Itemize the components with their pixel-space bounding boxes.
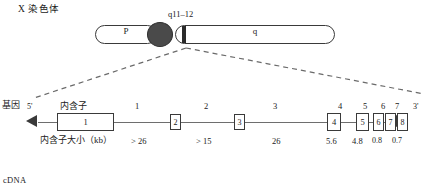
exon-label-8: 8 (398, 114, 407, 131)
exon-box-6: 6 (373, 113, 384, 131)
q-arm-label: q (175, 22, 335, 41)
band-label-q11-12: q11–12 (168, 10, 193, 19)
cdna-label: cDNA (3, 176, 26, 185)
intron-size-6: 0.8 (372, 137, 382, 145)
intron-number-4: 4 (338, 102, 342, 111)
intron-number-1: 1 (135, 102, 139, 111)
zoom-connector-lines (0, 44, 433, 100)
figure-canvas: X 染色体 q11–12 P q 基因 5' 3' 内含子 1 2 3 4 5 … (0, 0, 433, 191)
intron-number-3: 3 (273, 102, 277, 111)
gene-structure-map: 5' 3' 内含子 1 2 3 4 5 6 7 1 2 3 4 5 6 7 (0, 100, 433, 155)
exon-box-2: 2 (170, 114, 181, 130)
five-prime-label: 5' (27, 103, 32, 111)
five-prime-arrowhead (26, 115, 37, 127)
connector-line-right (186, 48, 424, 94)
intron-size-5: 4.8 (352, 137, 363, 146)
exon-label-4: 4 (328, 114, 340, 131)
exon-box-4: 4 (327, 113, 341, 131)
intron-size-1: > 26 (131, 137, 146, 146)
exon-label-6: 6 (374, 114, 383, 131)
three-prime-label: 3' (413, 103, 418, 111)
exon-label-7: 7 (386, 114, 395, 131)
intron-size-label: 内含子大小（kb） (40, 136, 112, 145)
exon-box-8: 8 (397, 113, 408, 131)
intron-size-4: 5.6 (326, 137, 337, 146)
exon-box-7: 7 (385, 113, 396, 131)
intron-size-2: > 15 (196, 137, 211, 146)
intron-size-7: 0.7 (392, 137, 402, 145)
intron-row-label: 内含子 (60, 102, 87, 111)
exon-label-1: 1 (58, 114, 113, 131)
exon-box-3: 3 (234, 114, 245, 130)
exon-label-5: 5 (357, 114, 368, 131)
intron-size-3: 26 (272, 137, 281, 146)
exon-label-3: 3 (235, 115, 244, 130)
intron-number-6: 6 (381, 102, 385, 111)
exon-box-1: 1 (57, 113, 114, 131)
intron-number-7: 7 (395, 102, 399, 111)
connector-line-left (34, 48, 186, 98)
exon-box-5: 5 (356, 113, 369, 131)
chromosome-title: X 染色体 (18, 5, 60, 15)
intron-number-5: 5 (363, 102, 367, 111)
intron-number-2: 2 (204, 102, 208, 111)
exon-label-2: 2 (171, 115, 180, 130)
